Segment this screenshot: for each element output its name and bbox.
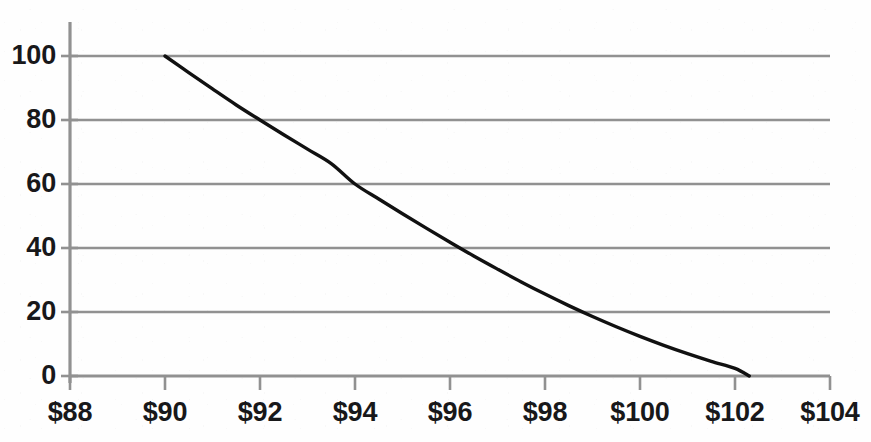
y-axis-label-40: 40 xyxy=(0,234,56,261)
axis-lines xyxy=(70,22,830,383)
x-axis-label-96: $96 xyxy=(395,399,505,426)
x-axis-label-90: $90 xyxy=(110,399,220,426)
x-axis-label-92: $92 xyxy=(205,399,315,426)
x-axis-label-100: $100 xyxy=(585,399,695,426)
y-axis-label-100: 100 xyxy=(0,42,56,69)
y-axis-label-0: 0 xyxy=(0,362,56,389)
y-axis-label-80: 80 xyxy=(0,106,56,133)
y-axis-label-20: 20 xyxy=(0,298,56,325)
x-axis-label-102: $102 xyxy=(680,399,790,426)
data-series-curve xyxy=(165,56,749,376)
y-axis-label-60: 60 xyxy=(0,170,56,197)
x-axis-label-88: $88 xyxy=(15,399,125,426)
x-axis-label-98: $98 xyxy=(490,399,600,426)
chart-figure: 100 80 60 40 20 0 $88 $90 $92 $94 $96 $9… xyxy=(0,0,871,442)
gridlines xyxy=(70,56,830,312)
x-axis-ticks xyxy=(70,376,830,390)
x-axis-label-94: $94 xyxy=(300,399,410,426)
chart-plot-area xyxy=(0,0,871,442)
x-axis-label-104: $104 xyxy=(775,399,871,426)
